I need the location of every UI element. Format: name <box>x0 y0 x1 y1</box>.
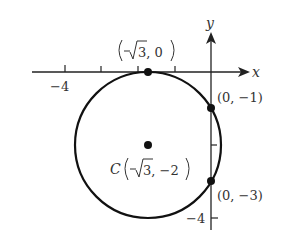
label-top-point: 3, 0 <box>119 40 174 61</box>
circle-diagram: x −4 y −4 3, 0 (0, −1) (0, −3) C 3, −2 <box>0 0 286 248</box>
x-tick-label: −4 <box>50 79 69 94</box>
label-center: C 3, −2 <box>110 158 189 180</box>
svg-text:3, −2: 3, −2 <box>143 163 179 178</box>
point-center <box>144 141 152 149</box>
svg-text:3, 0: 3, 0 <box>138 45 163 60</box>
y-axis-label: y <box>205 15 215 31</box>
point-top <box>144 68 152 76</box>
label-y-intercept-lower: (0, −3) <box>217 188 263 203</box>
y-tick-label: −4 <box>186 211 205 226</box>
x-axis <box>32 65 250 77</box>
label-y-intercept-upper: (0, −1) <box>217 90 263 105</box>
point-y-intercept-lower <box>207 177 215 185</box>
x-axis-label: x <box>252 64 260 80</box>
svg-text:C: C <box>110 161 121 177</box>
point-y-intercept-upper <box>207 104 215 112</box>
